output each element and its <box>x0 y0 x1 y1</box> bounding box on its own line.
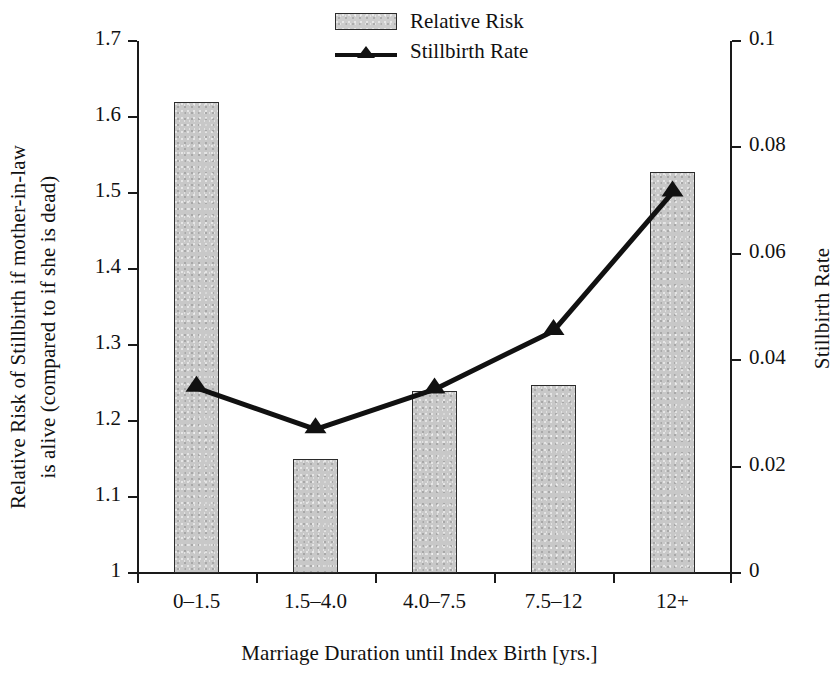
y-axis-right-tick-label: 0.06 <box>749 239 839 264</box>
y-axis-left-tick <box>128 192 137 194</box>
legend-label-relative-risk: Relative Risk <box>410 9 524 34</box>
y-axis-right-tick <box>732 40 741 42</box>
y-axis-left-title-line1: Relative Risk of Stillbirth if mother-in… <box>6 145 30 509</box>
y-axis-right-tick <box>732 572 741 574</box>
y-axis-right-tick-label: 0.04 <box>749 345 839 370</box>
y-axis-left-tick <box>128 268 137 270</box>
y-axis-left-title-line2: is alive (compared to if she is dead) <box>33 47 63 607</box>
y-axis-right-tick-label: 0.1 <box>749 26 839 51</box>
y-axis-left-tick-label: 1.5 <box>31 178 121 203</box>
y-axis-left-tick-label: 1.1 <box>31 482 121 507</box>
y-axis-left-tick-label: 1.7 <box>31 26 121 51</box>
y-axis-right-tick <box>732 359 741 361</box>
y-axis-left-tick-label: 1 <box>31 558 121 583</box>
y-axis-left-tick <box>128 40 137 42</box>
y-axis-right-tick <box>732 253 741 255</box>
y-axis-left-tick <box>128 496 137 498</box>
line-marker-triangle <box>186 376 208 392</box>
x-axis-title: Marriage Duration until Index Birth [yrs… <box>0 641 839 666</box>
x-axis-tick <box>256 573 258 583</box>
line-series-stillbirth-rate <box>137 41 732 574</box>
legend-item-relative-risk: Relative Risk <box>335 6 528 36</box>
y-axis-left-tick-label: 1.4 <box>31 254 121 279</box>
y-axis-left-tick <box>128 420 137 422</box>
x-axis-tick <box>613 573 615 583</box>
y-axis-right-tick-label: 0.02 <box>749 452 839 477</box>
y-axis-left-tick-label: 1.3 <box>31 330 121 355</box>
x-axis-tick <box>375 573 377 583</box>
y-axis-left-tick <box>128 116 137 118</box>
y-axis-left-tick <box>128 344 137 346</box>
bar-swatch-icon <box>335 13 397 30</box>
y-axis-right-tick <box>732 146 741 148</box>
y-axis-right-title: Stillbirth Rate <box>810 119 835 499</box>
y-axis-right-tick <box>732 466 741 468</box>
y-axis-right-tick-label: 0 <box>749 558 839 583</box>
x-axis-category-label: 12+ <box>603 589 743 614</box>
y-axis-left-tick <box>128 572 137 574</box>
y-axis-left-tick-label: 1.2 <box>31 406 121 431</box>
line-marker-triangle <box>662 181 684 197</box>
plot-area: 11.11.21.31.41.51.61.7 00.020.040.060.08… <box>137 41 732 573</box>
line-path <box>197 193 673 430</box>
x-axis-tick <box>494 573 496 583</box>
y-axis-right-tick-label: 0.08 <box>749 132 839 157</box>
y-axis-left-title: Relative Risk of Stillbirth if mother-in… <box>3 47 63 607</box>
y-axis-left-tick-label: 1.6 <box>31 102 121 127</box>
x-axis-tick <box>137 573 139 583</box>
stillbirth-relative-risk-chart: Relative Risk of Stillbirth if mother-in… <box>0 0 839 678</box>
x-axis-tick <box>730 573 732 583</box>
